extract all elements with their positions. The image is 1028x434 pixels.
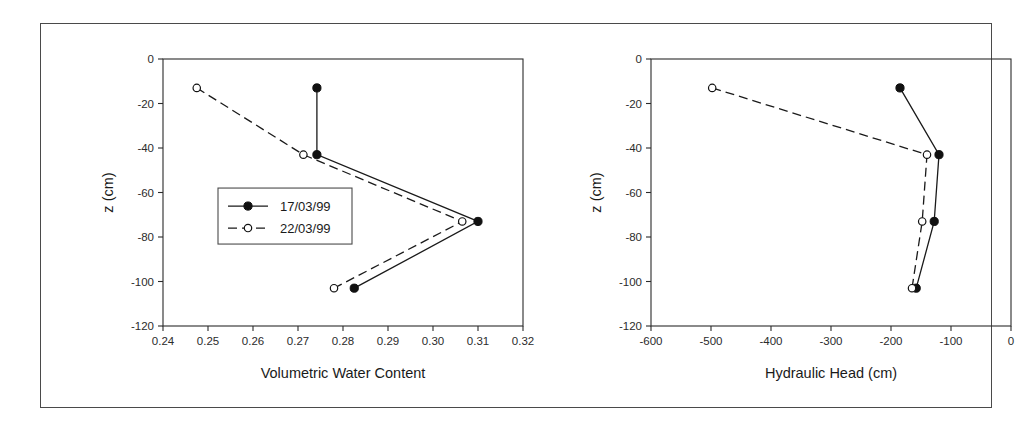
y-tick-label: -80	[137, 231, 154, 243]
x-tick-label: 0.31	[467, 335, 489, 347]
data-point-17-03-99	[474, 217, 482, 225]
x-tick-label: 0.26	[242, 335, 264, 347]
data-point-22-03-99	[919, 218, 926, 225]
legend-marker-22-03-99	[244, 224, 251, 231]
y-tick-label: -20	[625, 98, 642, 110]
x-tick-label: 0.29	[377, 335, 399, 347]
y-tick-label: 0	[636, 53, 642, 65]
data-point-17-03-99	[930, 217, 938, 225]
x-tick-label: -100	[939, 335, 962, 347]
data-point-17-03-99	[896, 84, 904, 92]
x-tick-label: 0.30	[422, 335, 444, 347]
y-tick-label: -120	[619, 320, 642, 332]
plot-area-right: -600-500-400-300-200-10000-20-40-60-80-1…	[541, 24, 991, 409]
y-tick-label: -120	[131, 320, 154, 332]
x-tick-label: 0.27	[287, 335, 309, 347]
y-tick-label: -40	[625, 142, 642, 154]
series-line-22-03-99	[712, 88, 927, 288]
x-tick-label: -400	[759, 335, 782, 347]
y-axis-title: z (cm)	[100, 172, 116, 212]
y-tick-label: -40	[137, 142, 154, 154]
data-point-17-03-99	[313, 151, 321, 159]
axis-frame	[651, 59, 1011, 326]
series-line-17-03-99	[900, 88, 939, 288]
data-point-22-03-99	[908, 284, 915, 291]
x-tick-label: 0.28	[332, 335, 354, 347]
y-tick-label: -60	[137, 187, 154, 199]
data-point-22-03-99	[459, 218, 466, 225]
x-tick-label: -300	[819, 335, 842, 347]
chart-legend: 17/03/9922/03/99	[218, 188, 352, 244]
x-tick-label: -600	[639, 335, 662, 347]
data-point-22-03-99	[300, 151, 307, 158]
x-tick-label: -200	[879, 335, 902, 347]
legend-box	[218, 188, 352, 244]
y-tick-label: -100	[131, 276, 154, 288]
y-tick-label: 0	[148, 53, 154, 65]
chart-panel-hydraulic-head: -600-500-400-300-200-10000-20-40-60-80-1…	[541, 24, 991, 409]
chart-panel-volumetric-water-content: 0.240.250.260.270.280.290.300.310.320-20…	[41, 24, 541, 409]
y-tick-label: -80	[625, 231, 642, 243]
data-point-22-03-99	[330, 284, 337, 291]
x-tick-label: 0.32	[512, 335, 534, 347]
legend-label: 22/03/99	[280, 221, 331, 236]
y-tick-label: -100	[619, 276, 642, 288]
data-point-17-03-99	[935, 151, 943, 159]
x-axis-title: Volumetric Water Content	[261, 365, 426, 381]
legend-marker-17-03-99	[244, 202, 252, 210]
x-tick-label: 0.25	[197, 335, 219, 347]
x-tick-label: 0	[1008, 335, 1014, 347]
y-tick-label: -60	[625, 187, 642, 199]
y-axis-title: z (cm)	[588, 172, 604, 212]
y-tick-label: -20	[137, 98, 154, 110]
data-point-22-03-99	[709, 84, 716, 91]
figure-outer-frame: 0.240.250.260.270.280.290.300.310.320-20…	[40, 23, 992, 408]
x-axis-title: Hydraulic Head (cm)	[765, 365, 897, 381]
data-point-22-03-99	[923, 151, 930, 158]
x-tick-label: -500	[699, 335, 722, 347]
legend-label: 17/03/99	[280, 199, 331, 214]
plot-area-left: 0.240.250.260.270.280.290.300.310.320-20…	[41, 24, 541, 409]
figure-root: 0.240.250.260.270.280.290.300.310.320-20…	[0, 0, 1028, 434]
data-point-22-03-99	[193, 84, 200, 91]
data-point-17-03-99	[350, 284, 358, 292]
data-point-17-03-99	[313, 84, 321, 92]
x-tick-label: 0.24	[152, 335, 175, 347]
